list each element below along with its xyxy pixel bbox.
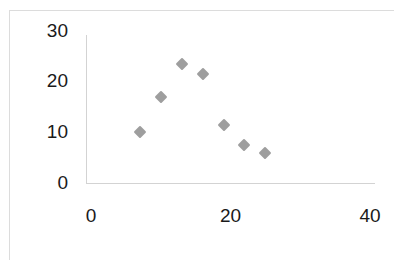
data-point-marker — [133, 126, 146, 139]
x-tick-label: 0 — [61, 206, 121, 225]
x-axis-line — [86, 183, 375, 184]
y-tick-label: 20 — [20, 71, 68, 90]
y-tick-label: 0 — [20, 173, 68, 192]
data-point-marker — [154, 90, 167, 103]
y-tick-label: 10 — [20, 122, 68, 141]
data-point-marker — [196, 67, 209, 80]
scatter-chart-figure: 0102030 02040 — [0, 0, 401, 268]
x-tick-label: 40 — [340, 206, 400, 225]
data-point-marker — [259, 146, 272, 159]
y-axis-line — [86, 35, 87, 184]
y-tick-label: 30 — [20, 21, 68, 40]
data-point-marker — [175, 57, 188, 70]
data-point-marker — [238, 139, 251, 152]
plot-area: 0102030 02040 — [0, 0, 401, 268]
x-tick-label: 20 — [201, 206, 261, 225]
data-point-marker — [217, 118, 230, 131]
